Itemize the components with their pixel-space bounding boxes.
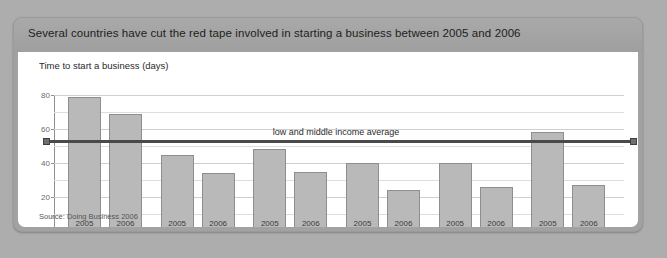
- bar-czech-republic-2006[interactable]: 2006: [387, 190, 420, 227]
- y-axis-tick-mark: [51, 197, 54, 198]
- y-axis-tick-mark: [51, 129, 54, 130]
- bar-china-2005[interactable]: 2005: [253, 149, 286, 227]
- bar-series-label: 2005: [347, 219, 378, 227]
- bar-el-salvador-2005[interactable]: 2005: [439, 163, 472, 227]
- bar-belarus-2005[interactable]: 2005: [68, 97, 101, 227]
- bar-mexico-2005[interactable]: 2005: [531, 132, 564, 227]
- y-axis-tick-mark: [51, 163, 54, 164]
- bar-china-2006[interactable]: 2006: [294, 172, 327, 228]
- bar-series-label: 2005: [440, 219, 471, 227]
- figure-panel: Several countries have cut the red tape …: [13, 17, 643, 232]
- y-axis-tick-label: 80: [41, 91, 50, 100]
- bar-burkina-faso-2005[interactable]: 2005: [161, 155, 194, 228]
- average-line-left-marker-icon: [43, 138, 50, 145]
- y-axis-tick-label: 0: [46, 227, 50, 228]
- bar-series-label: 2006: [388, 219, 419, 227]
- bar-group: 20052006Mexico: [527, 95, 609, 227]
- y-axis-tick-label: 40: [41, 159, 50, 168]
- average-line-label: low and middle income average: [273, 127, 400, 137]
- figure-title: Several countries have cut the red tape …: [14, 18, 642, 52]
- bar-series-label: 2006: [573, 219, 604, 227]
- bar-group: 20052006China: [249, 95, 331, 227]
- bar-burkina-faso-2006[interactable]: 2006: [202, 173, 235, 227]
- average-reference-line: [49, 140, 630, 143]
- bar-series-label: 2005: [532, 219, 563, 227]
- bar-belarus-2006[interactable]: 2006: [109, 114, 142, 227]
- bar-czech-republic-2005[interactable]: 2005: [346, 163, 379, 227]
- y-axis-tick-label: 20: [41, 193, 50, 202]
- bar-group: 20052006El Salvador: [435, 95, 517, 227]
- y-axis-tick-label: 60: [41, 125, 50, 134]
- bar-series-label: 2005: [254, 219, 285, 227]
- bar-group: 20052006Czech Republic: [342, 95, 424, 227]
- bar-series-label: 2006: [481, 219, 512, 227]
- average-line-right-marker-icon: [630, 138, 637, 145]
- bar-group: 20052006Burkina Faso: [157, 95, 239, 227]
- bar-group: 20052006Belarus: [64, 95, 146, 227]
- bar-series-label: 2005: [162, 219, 193, 227]
- y-axis: [54, 95, 55, 227]
- chart-subtitle: Time to start a business (days): [39, 60, 169, 71]
- bar-mexico-2006[interactable]: 2006: [572, 185, 605, 227]
- y-axis-tick-mark: [51, 95, 54, 96]
- source-note: Source: Doing Business 2006: [39, 212, 138, 221]
- plot-card: Time to start a business (days) 02040608…: [18, 52, 638, 227]
- plot-area: 020406080 20052006Belarus20052006Burkina…: [54, 95, 624, 227]
- bar-el-salvador-2006[interactable]: 2006: [480, 187, 513, 227]
- bar-series-label: 2006: [203, 219, 234, 227]
- bar-series-label: 2006: [295, 219, 326, 227]
